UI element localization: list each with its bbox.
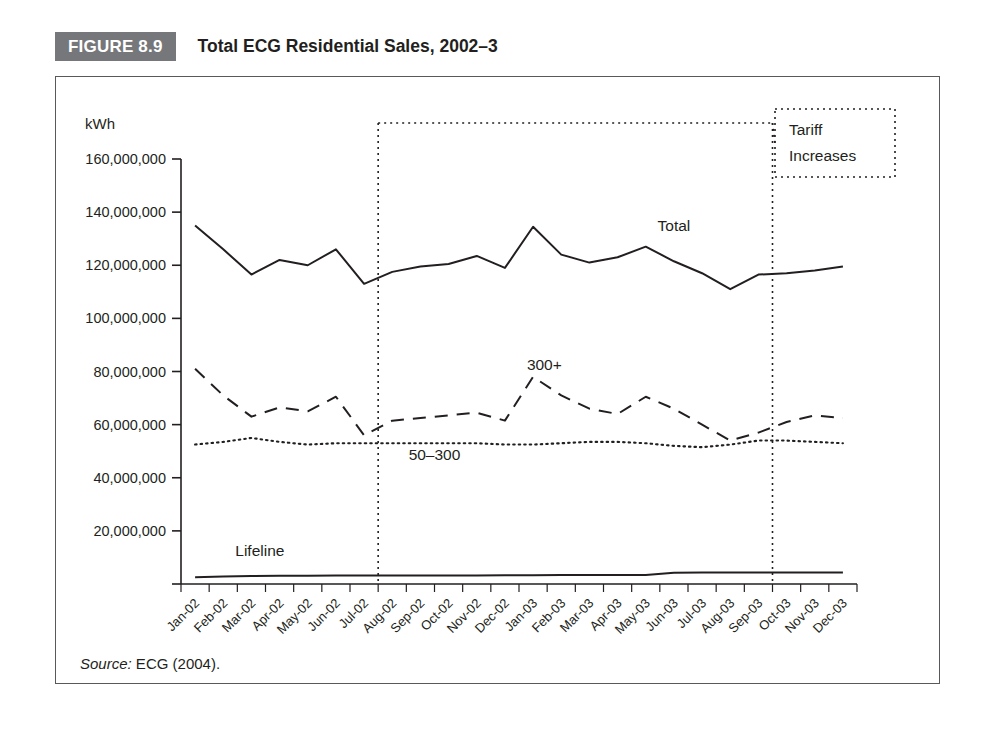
series-label-300-: 300+ <box>527 356 562 373</box>
chart-labels-layer: Total300+50–300Lifeline <box>235 217 690 559</box>
source-value: ECG (2004). <box>132 655 220 672</box>
y-axis-tick-label: 120,000,000 <box>85 257 166 273</box>
source-label: Source: <box>80 655 132 672</box>
y-axis-tick-label: 100,000,000 <box>85 310 166 326</box>
series-line-total <box>195 225 843 289</box>
tariff-callout-box <box>775 109 895 177</box>
chart-canvas: 20,000,00040,000,00060,000,00080,000,000… <box>56 77 941 685</box>
figure-frame: 20,000,00040,000,00060,000,00080,000,000… <box>55 76 940 684</box>
series-label-lifeline: Lifeline <box>235 542 284 559</box>
y-axis-tick-label: 40,000,000 <box>93 470 166 486</box>
page-title: Total ECG Residential Sales, 2002–3 <box>198 36 498 57</box>
source-note: Source: ECG (2004). <box>80 655 220 672</box>
tariff-callout-line-2: Increases <box>789 147 856 164</box>
figure-number-badge: FIGURE 8.9 <box>55 32 176 61</box>
y-axis-tick-label: 60,000,000 <box>93 417 166 433</box>
y-axis-tick-label: 20,000,000 <box>93 523 166 539</box>
series-line-300- <box>195 369 843 441</box>
chart-series-layer <box>195 225 843 577</box>
y-axis-tick-label: 160,000,000 <box>85 151 166 167</box>
tariff-callout-line-1: Tariff <box>789 121 823 138</box>
chart-annotations-layer: TariffIncreases <box>378 109 895 584</box>
series-label-total: Total <box>658 217 691 234</box>
y-axis-tick-label: 80,000,000 <box>93 364 166 380</box>
figure-header: FIGURE 8.9 Total ECG Residential Sales, … <box>55 30 498 62</box>
series-label-50-300: 50–300 <box>409 446 461 463</box>
series-line-50-300 <box>195 438 843 447</box>
figure-container: FIGURE 8.9 Total ECG Residential Sales, … <box>0 0 994 731</box>
series-line-lifeline <box>195 573 843 578</box>
y-axis-tick-label: 140,000,000 <box>85 204 166 220</box>
y-axis-unit-label: kWh <box>85 115 115 132</box>
chart-axes-layer: 20,000,00040,000,00060,000,00080,000,000… <box>85 115 857 637</box>
